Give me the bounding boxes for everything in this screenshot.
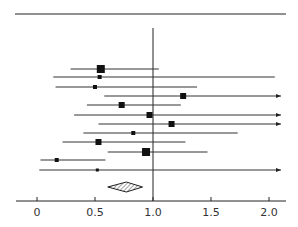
study-row xyxy=(63,139,186,145)
study-row xyxy=(83,131,237,135)
study-row xyxy=(39,168,281,172)
forest-plot: 00.51.01.52.0 xyxy=(0,0,298,227)
study-row xyxy=(40,158,105,162)
x-tick-label: 1.5 xyxy=(202,206,220,219)
study-row xyxy=(71,65,159,73)
arrow-icon xyxy=(276,168,281,172)
x-tick-label: 1.0 xyxy=(144,206,162,219)
study-row xyxy=(74,112,281,118)
study-row xyxy=(104,93,281,99)
point-estimate xyxy=(180,93,186,99)
arrow-icon xyxy=(276,113,281,117)
point-estimate xyxy=(55,158,59,162)
point-estimate xyxy=(97,65,105,73)
point-estimate xyxy=(119,102,125,108)
study-rows xyxy=(39,65,281,172)
study-row xyxy=(87,102,181,108)
x-tick-label: 2.0 xyxy=(260,206,278,219)
point-estimate xyxy=(147,112,153,118)
x-tick-label: 0.5 xyxy=(86,206,104,219)
pooled-diamond-shape xyxy=(108,182,143,192)
arrow-icon xyxy=(276,122,281,126)
point-estimate xyxy=(96,169,99,172)
arrow-icon xyxy=(276,94,281,98)
study-row xyxy=(53,75,275,79)
point-estimate xyxy=(131,131,135,135)
x-axis: 00.51.01.52.0 xyxy=(16,197,286,219)
point-estimate xyxy=(169,121,175,127)
point-estimate xyxy=(93,85,97,89)
study-row xyxy=(98,121,281,127)
point-estimate xyxy=(98,75,102,79)
point-estimate xyxy=(95,139,101,145)
study-row xyxy=(108,148,208,156)
x-tick-label: 0 xyxy=(34,206,41,219)
pooled-diamond xyxy=(108,182,143,192)
point-estimate xyxy=(142,148,150,156)
study-row xyxy=(56,85,198,89)
